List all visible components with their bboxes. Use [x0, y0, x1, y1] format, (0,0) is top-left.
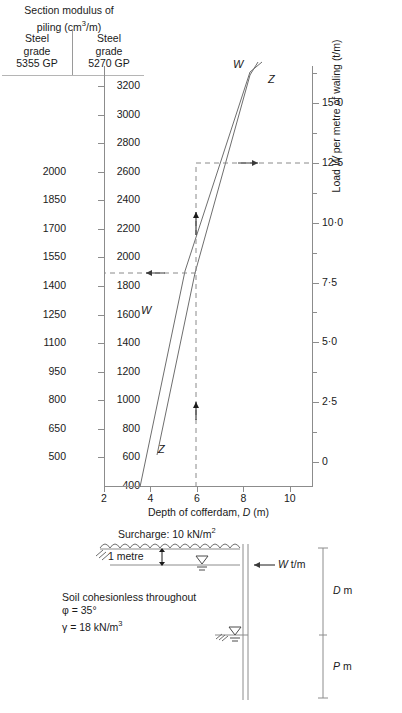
curve-z — [157, 62, 258, 455]
curve-label-z-bottom: Z — [158, 443, 165, 455]
load-label: W t/m — [278, 558, 305, 571]
chart-plot-svg — [0, 0, 402, 713]
soil-note: Soil cohesionless throughout — [62, 591, 196, 604]
one-metre-label: 1 metre — [108, 550, 144, 563]
gamma-value: γ = 18 kN/m3 — [62, 617, 122, 634]
water-table-symbol-lower — [229, 627, 241, 641]
dimension-label-p: P m — [333, 660, 352, 673]
curve-label-w-bottom: W — [141, 304, 151, 316]
curve-w — [140, 62, 262, 487]
phi-value: φ = 35° — [62, 604, 97, 617]
curve-label-z-top: Z — [268, 73, 275, 85]
water-table-symbol-upper — [196, 556, 208, 570]
curve-label-w-top: W — [233, 58, 243, 70]
surcharge-wave — [100, 544, 240, 548]
surcharge-label: Surcharge: 10 kN/m2 — [118, 524, 216, 541]
dimension-label-d: D m — [333, 584, 352, 597]
